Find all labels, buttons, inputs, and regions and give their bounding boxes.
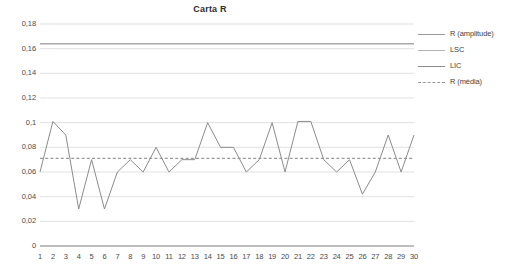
x-tick-label: 27 — [371, 252, 379, 261]
plot-svg — [0, 18, 420, 250]
control-limit-lines — [40, 44, 414, 246]
line-solid-icon — [418, 29, 445, 39]
x-tick-label: 1 — [38, 252, 42, 261]
x-tick-label: 6 — [102, 252, 106, 261]
x-tick-label: 22 — [307, 252, 315, 261]
legend-label: R (amplitude) — [450, 29, 494, 38]
x-tick-label: 7 — [115, 252, 119, 261]
x-tick-label: 11 — [165, 252, 172, 261]
x-tick-label: 15 — [217, 252, 225, 261]
x-tick-label: 13 — [191, 252, 199, 261]
series-line-r-amplitude — [40, 121, 414, 209]
line-solid-icon — [418, 61, 445, 71]
x-tick-label: 18 — [255, 252, 263, 261]
x-tick-label: 12 — [178, 252, 186, 261]
legend-item-r-amplitude: R (amplitude) — [418, 26, 509, 41]
x-tick-label: 5 — [90, 252, 94, 261]
plot-area — [0, 18, 420, 250]
x-tick-label: 16 — [229, 252, 237, 261]
chart-title: Carta R — [0, 4, 420, 14]
x-tick-label: 14 — [204, 252, 212, 261]
legend-label: LIC — [450, 61, 461, 70]
x-tick-label: 21 — [294, 252, 302, 261]
x-tick-label: 30 — [410, 252, 418, 261]
legend-item-lsc: LSC — [418, 42, 509, 57]
x-tick-label: 2 — [51, 252, 55, 261]
x-tick-label: 4 — [77, 252, 81, 261]
line-solid-icon — [418, 45, 445, 55]
x-tick-label: 28 — [384, 252, 392, 261]
legend-label: LSC — [450, 45, 464, 54]
chart-legend: R (amplitude) LSC LIC R (média) — [418, 26, 509, 90]
x-tick-label: 19 — [268, 252, 276, 261]
gridlines — [40, 24, 414, 246]
line-dashed-icon — [418, 77, 445, 87]
x-tick-label: 9 — [141, 252, 145, 261]
x-tick-label: 23 — [320, 252, 328, 261]
x-tick-label: 10 — [152, 252, 160, 261]
control-chart-r: Carta R 00,020,040,060,080,10,120,140,16… — [0, 0, 509, 277]
legend-label: R (média) — [450, 77, 482, 86]
x-tick-label: 24 — [333, 252, 341, 261]
x-tick-label: 20 — [281, 252, 289, 261]
x-tick-label: 17 — [242, 252, 250, 261]
legend-item-r-media: R (média) — [418, 74, 509, 89]
x-tick-label: 25 — [346, 252, 354, 261]
x-tick-label: 8 — [128, 252, 132, 261]
x-tick-label: 29 — [397, 252, 405, 261]
x-tick-label: 3 — [64, 252, 68, 261]
x-tick-label: 26 — [358, 252, 366, 261]
x-axis-tick-labels: 1234567891011121314151617181920212223242… — [0, 252, 420, 274]
legend-item-lic: LIC — [418, 58, 509, 73]
